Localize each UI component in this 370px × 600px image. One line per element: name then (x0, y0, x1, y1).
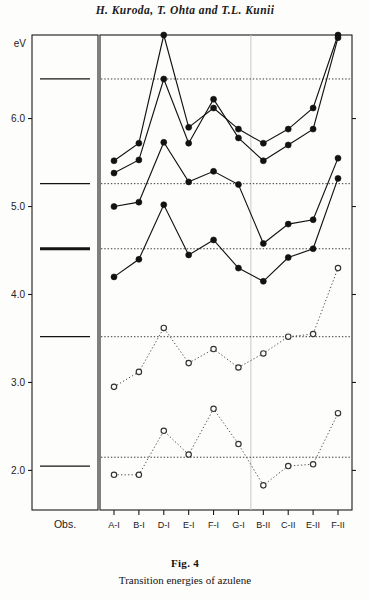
data-point-filled (186, 140, 192, 146)
data-point-filled (260, 158, 266, 164)
figure-caption-text: Transition energies of azulene (0, 574, 370, 588)
y-axis-unit-label: eV (14, 38, 27, 49)
data-point-open (136, 472, 141, 477)
data-point-open (111, 472, 116, 477)
x-tick-label: F-I (208, 520, 219, 530)
transition-energy-chart: 6.05.04.03.02.0eVA-IB-ID-IE-IF-IG-IB-IIC… (0, 30, 370, 530)
figure-caption: Fig. 4 Transition energies of azulene (0, 552, 370, 588)
data-point-open (136, 369, 141, 374)
data-point-filled (335, 155, 341, 161)
data-point-open (335, 411, 340, 416)
data-point-filled (111, 170, 117, 176)
y-tick-label: 6.0 (11, 113, 25, 124)
figure-number: Fig. 4 (171, 557, 199, 569)
data-point-filled (260, 278, 266, 284)
series-line-calculated-band-6 (114, 409, 338, 486)
data-point-open (161, 325, 166, 330)
data-point-filled (161, 139, 167, 145)
data-point-filled (235, 126, 241, 132)
x-tick-label: A-I (108, 520, 120, 530)
data-point-filled (335, 35, 341, 41)
data-point-filled (186, 252, 192, 258)
data-point-open (310, 462, 315, 467)
series-line-calculated-band-1 (114, 35, 338, 161)
data-point-filled (211, 96, 217, 102)
x-tick-label: D-I (158, 520, 170, 530)
data-point-filled (161, 32, 167, 38)
x-tick-label: E-I (183, 520, 195, 530)
data-point-filled (285, 126, 291, 132)
data-point-filled (260, 140, 266, 146)
x-tick-label: B-I (133, 520, 145, 530)
data-point-filled (211, 168, 217, 174)
data-point-filled (161, 202, 167, 208)
figure-plot-area: 6.05.04.03.02.0eVA-IB-ID-IE-IF-IG-IB-IIC… (0, 30, 370, 530)
data-point-filled (310, 217, 316, 223)
series-line-calculated-band-5 (114, 268, 338, 387)
x-tick-label: F-II (331, 520, 345, 530)
data-point-open (161, 428, 166, 433)
data-point-filled (310, 105, 316, 111)
data-point-filled (335, 175, 341, 181)
x-tick-label: G-I (232, 520, 245, 530)
data-point-open (186, 452, 191, 457)
obs-panel-frame (32, 35, 98, 510)
data-point-open (211, 346, 216, 351)
data-point-open (236, 441, 241, 446)
data-point-filled (310, 126, 316, 132)
y-tick-label: 4.0 (11, 289, 25, 300)
series-line-calculated-band-3 (114, 142, 338, 243)
data-point-filled (260, 240, 266, 246)
x-tick-label: C-II (281, 520, 296, 530)
data-point-filled (235, 182, 241, 188)
data-point-open (310, 331, 315, 336)
data-point-filled (235, 265, 241, 271)
data-point-open (111, 384, 116, 389)
data-point-filled (136, 256, 142, 262)
data-point-open (286, 463, 291, 468)
x-tick-label: B-II (256, 520, 270, 530)
data-point-filled (161, 76, 167, 82)
data-point-filled (136, 140, 142, 146)
data-point-filled (111, 158, 117, 164)
data-point-open (186, 360, 191, 365)
data-point-filled (310, 246, 316, 252)
data-point-filled (211, 105, 217, 111)
data-point-filled (285, 221, 291, 227)
data-point-filled (235, 135, 241, 141)
y-tick-label: 3.0 (11, 377, 25, 388)
data-point-filled (111, 274, 117, 280)
data-point-filled (136, 199, 142, 205)
x-tick-label: E-II (306, 520, 320, 530)
data-point-filled (186, 124, 192, 130)
data-point-open (335, 265, 340, 270)
data-point-filled (111, 204, 117, 210)
data-point-open (211, 406, 216, 411)
data-point-open (261, 351, 266, 356)
data-point-filled (285, 142, 291, 148)
data-point-open (261, 483, 266, 488)
obs-panel-label: Obs. (54, 518, 76, 530)
series-line-calculated-band-4 (114, 178, 338, 281)
y-tick-label: 2.0 (11, 465, 25, 476)
data-point-filled (211, 237, 217, 243)
running-head: H. Kuroda, T. Ohta and T.L. Kunii (0, 4, 370, 16)
data-point-filled (136, 157, 142, 163)
data-point-open (236, 365, 241, 370)
y-tick-label: 5.0 (11, 201, 25, 212)
data-point-filled (186, 179, 192, 185)
data-point-open (286, 334, 291, 339)
data-point-filled (285, 255, 291, 261)
